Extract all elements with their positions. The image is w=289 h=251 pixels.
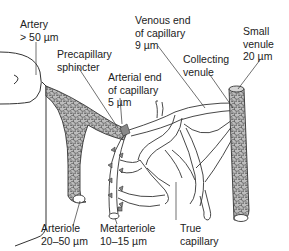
arterial-end-line2: of capillary (108, 84, 162, 97)
collecting-venule-line1: Collecting (183, 53, 229, 66)
small-venule-size: 20 µm (243, 50, 274, 63)
label-venous-end: Venous end of capillary 9 µm (135, 14, 190, 52)
arterial-end-size: 5 µm (108, 96, 162, 109)
precapillary-line1: Precapillary (57, 48, 112, 61)
artery-name: Artery (20, 18, 58, 31)
small-venule-name: Small (243, 25, 274, 38)
arterial-end-line1: Arterial end (108, 71, 162, 84)
label-precapillary-sphincter: Precapillary sphincter (57, 48, 112, 73)
arteriole-size: 20–50 µm (41, 235, 88, 248)
small-venule-line2: venule (243, 38, 274, 51)
label-small-venule: Small venule 20 µm (243, 25, 274, 63)
artery-size: > 50 µm (20, 31, 58, 44)
metarteriole-size: 10–15 µm (100, 235, 155, 248)
venous-end-size: 9 µm (135, 39, 190, 52)
venous-end-line1: Venous end (135, 14, 190, 27)
label-true-capillary: True capillary (180, 222, 219, 247)
metarteriole (108, 130, 128, 219)
venous-end-line2: of capillary (135, 27, 190, 40)
capillary-network (118, 101, 242, 220)
precapillary-line2: sphincter (57, 61, 112, 74)
sphincter-cells (108, 147, 123, 211)
collecting-venule-line2: venule (183, 66, 229, 79)
label-artery: Artery > 50 µm (20, 18, 58, 43)
label-arteriole: Arteriole 20–50 µm (41, 222, 88, 247)
label-collecting-venule: Collecting venule (183, 53, 229, 78)
true-capillary-line2: capillary (180, 235, 219, 248)
label-arterial-end: Arterial end of capillary 5 µm (108, 71, 162, 109)
label-metarteriole: Metarteriole 10–15 µm (100, 222, 155, 247)
artery (0, 52, 46, 246)
true-capillary-line1: True (180, 222, 219, 235)
metarteriole-name: Metarteriole (100, 222, 155, 235)
arteriole-name: Arteriole (41, 222, 88, 235)
